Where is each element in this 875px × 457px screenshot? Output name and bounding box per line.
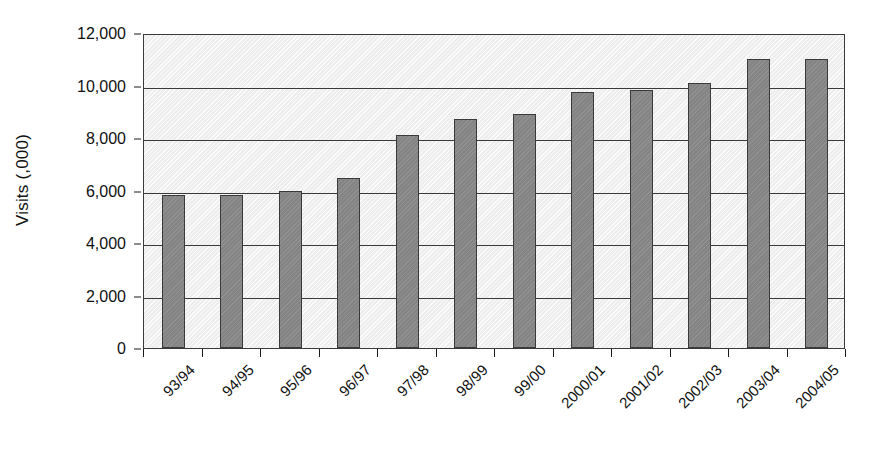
y-axis-title-text: Visits (,000) [13, 134, 33, 226]
x-axis-tick-mark [553, 349, 554, 357]
y-axis-tick-labels: 02,0004,0006,0008,00010,00012,000 [46, 0, 134, 360]
x-axis-tick-label: 97/98 [394, 361, 433, 400]
y-axis-tick-label: 2,000 [86, 288, 126, 306]
x-axis-tick-mark [436, 349, 437, 357]
x-axis-tick-label: 93/94 [160, 361, 199, 400]
x-axis: 93/9494/9595/9696/9797/9898/9999/002000/… [143, 349, 845, 457]
y-axis-tick-mark [134, 34, 141, 35]
x-axis-tick-mark [670, 349, 671, 357]
bar [279, 191, 302, 349]
x-axis-tick-label: 96/97 [335, 361, 374, 400]
x-axis-tick-label: 2000/01 [557, 361, 607, 411]
x-axis-tick-label: 99/00 [511, 361, 550, 400]
y-axis-tick-mark [134, 244, 141, 245]
y-axis-tick-label: 12,000 [77, 25, 126, 43]
y-axis-tick-mark [134, 139, 141, 140]
y-axis-tick-mark [134, 191, 141, 192]
bar [396, 135, 419, 348]
y-axis-tick-label: 4,000 [86, 235, 126, 253]
x-axis-tick-mark [319, 349, 320, 357]
y-axis-tick-label: 8,000 [86, 130, 126, 148]
x-axis-tick-mark [143, 349, 144, 357]
bar [162, 195, 185, 348]
x-axis-tick-mark [494, 349, 495, 357]
x-axis-tick-label: 94/95 [218, 361, 257, 400]
bar-chart: Visits (,000) 02,0004,0006,0008,00010,00… [0, 0, 875, 457]
y-axis-tick-label: 6,000 [86, 183, 126, 201]
bar [454, 119, 477, 348]
x-axis-tick-mark [260, 349, 261, 357]
bar [571, 92, 594, 348]
x-axis-tick-mark [728, 349, 729, 357]
bar [688, 83, 711, 348]
x-axis-tick-mark [845, 349, 846, 357]
x-axis-tick-label: 95/96 [277, 361, 316, 400]
x-axis-tick-mark [202, 349, 203, 357]
y-axis-tick-label: 10,000 [77, 78, 126, 96]
bar [630, 90, 653, 348]
bar [747, 59, 770, 348]
bar [337, 178, 360, 348]
x-axis-tick-label: 2003/04 [733, 361, 783, 411]
plot-area [143, 34, 845, 349]
x-axis-tick-mark [611, 349, 612, 357]
y-axis-tick-mark [134, 296, 141, 297]
x-axis-tick-label: 2002/03 [674, 361, 724, 411]
bar [805, 59, 828, 348]
y-axis-tick-mark [134, 349, 141, 350]
bar [220, 195, 243, 348]
x-axis-tick-mark [787, 349, 788, 357]
x-axis-tick-label: 2004/05 [791, 361, 841, 411]
x-axis-tick-mark [377, 349, 378, 357]
bar [513, 114, 536, 348]
y-axis-tick-label: 0 [117, 340, 126, 358]
y-axis-title: Visits (,000) [0, 0, 46, 360]
y-axis-tick-mark [134, 86, 141, 87]
bars [144, 35, 844, 348]
x-axis-tick-label: 2001/02 [616, 361, 666, 411]
x-axis-tick-label: 98/99 [452, 361, 491, 400]
